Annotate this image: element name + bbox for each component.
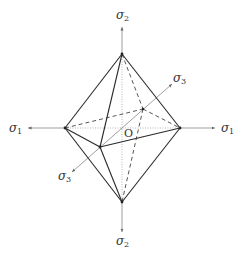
sigma3-axis-front <box>72 128 122 172</box>
edge-front-bottom <box>100 147 122 202</box>
origin-label: O <box>124 127 133 140</box>
svg-text:2: 2 <box>124 14 129 23</box>
svg-text:3: 3 <box>181 77 186 86</box>
edge-left-front <box>65 128 100 147</box>
edge-back-right <box>143 109 180 128</box>
svg-text:1: 1 <box>229 127 234 136</box>
svg-text:1: 1 <box>17 127 22 136</box>
edge-left-back <box>65 109 143 128</box>
sigma2-top-label: σ 2 <box>116 8 129 23</box>
sigma2-bottom-label: σ 2 <box>116 234 129 249</box>
svg-text:3: 3 <box>66 175 71 184</box>
edge-top-back <box>122 54 143 109</box>
edge-top-right <box>122 54 180 128</box>
sigma3-front-label: σ 3 <box>58 169 71 184</box>
edge-left-bottom <box>65 128 122 202</box>
hidden-axis-lines <box>65 54 180 202</box>
sigma3-axis-back <box>122 84 172 128</box>
sigma3-back-label: σ 3 <box>173 71 186 86</box>
sigma1-right-label: σ 1 <box>221 121 234 136</box>
svg-text:2: 2 <box>124 240 129 249</box>
sigma1-left-label: σ 1 <box>9 121 22 136</box>
octahedron-diagram: O σ 2 σ 2 σ 1 σ 1 σ 3 σ 3 <box>0 0 242 255</box>
